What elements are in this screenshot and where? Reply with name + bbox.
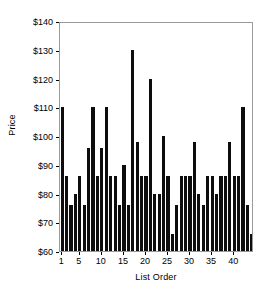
- bar: [202, 205, 205, 251]
- bar: [224, 176, 227, 251]
- bar: [91, 107, 94, 251]
- bar: [96, 176, 99, 251]
- bar: [87, 148, 90, 252]
- bar: [136, 142, 139, 251]
- x-axis-tick-mark: [189, 252, 190, 255]
- plot-area: [59, 22, 253, 252]
- bar: [228, 142, 231, 251]
- bar: [78, 176, 81, 251]
- x-axis-tick-mark: [211, 252, 212, 255]
- y-axis-tick-label: $90: [38, 161, 53, 171]
- y-axis-tick-label: $60: [38, 247, 53, 257]
- bar: [246, 205, 249, 251]
- x-axis-tick-mark: [233, 252, 234, 255]
- bar: [188, 176, 191, 251]
- bar: [114, 176, 117, 251]
- bar: [158, 194, 161, 252]
- x-axis-tick-mark: [101, 252, 102, 255]
- x-axis-tick-mark: [145, 252, 146, 255]
- bars-layer: [60, 23, 252, 251]
- x-axis-title: List Order: [59, 272, 253, 282]
- bar: [184, 176, 187, 251]
- bar: [153, 194, 156, 252]
- y-axis-tick-label: $70: [38, 218, 53, 228]
- x-axis-tick-label: 15: [118, 256, 128, 266]
- x-axis-tick-label: 20: [140, 256, 150, 266]
- bar: [69, 205, 72, 251]
- bar: [233, 176, 236, 251]
- y-axis-tick-label: $100: [33, 132, 53, 142]
- y-axis-tick-label: $80: [38, 190, 53, 200]
- x-axis-tick-label: 10: [96, 256, 106, 266]
- x-axis-tick-mark: [61, 252, 62, 255]
- bar: [175, 205, 178, 251]
- bar: [122, 165, 125, 251]
- x-axis-tick-label: 35: [206, 256, 216, 266]
- bar: [197, 194, 200, 252]
- bar: [149, 79, 152, 252]
- y-axis-tick-label: $130: [33, 46, 53, 56]
- bar: [61, 107, 64, 251]
- bar: [215, 194, 218, 252]
- bar: [206, 176, 209, 251]
- bar: [193, 142, 196, 251]
- bar: [144, 176, 147, 251]
- x-axis-tick-labels: 1510152025303540: [59, 256, 253, 270]
- bar: [219, 176, 222, 251]
- bar: [162, 136, 165, 251]
- bar: [241, 107, 244, 251]
- x-axis-tick-label: 40: [228, 256, 238, 266]
- bar: [140, 176, 143, 251]
- bar: [118, 205, 121, 251]
- bar: [171, 234, 174, 251]
- x-axis-tick-mark: [167, 252, 168, 255]
- bar: [237, 176, 240, 251]
- x-axis-tick-mark: [79, 252, 80, 255]
- x-axis-tick-label: 5: [76, 256, 81, 266]
- bar: [250, 234, 253, 251]
- bar: [105, 107, 108, 251]
- x-axis-tick-label: 25: [162, 256, 172, 266]
- y-axis-tick-labels: $60$70$80$90$100$110$120$130$140: [0, 0, 57, 294]
- x-axis-tick-label: 1: [59, 256, 64, 266]
- y-axis-tick-label: $110: [34, 103, 53, 113]
- price-by-list-order-bar-chart: Price $60$70$80$90$100$110$120$130$140 1…: [0, 0, 275, 294]
- bar: [109, 176, 112, 251]
- bar: [127, 205, 130, 251]
- x-axis-tick-label: 30: [184, 256, 194, 266]
- bar: [65, 176, 68, 251]
- y-axis-tick-label: $120: [33, 75, 53, 85]
- bar: [100, 148, 103, 252]
- bar: [131, 50, 134, 251]
- x-axis-tick-mark: [123, 252, 124, 255]
- bar: [83, 205, 86, 251]
- bar: [211, 176, 214, 251]
- bar: [180, 176, 183, 251]
- bar: [74, 194, 77, 252]
- y-axis-tick-label: $140: [33, 17, 53, 27]
- bar: [166, 176, 169, 251]
